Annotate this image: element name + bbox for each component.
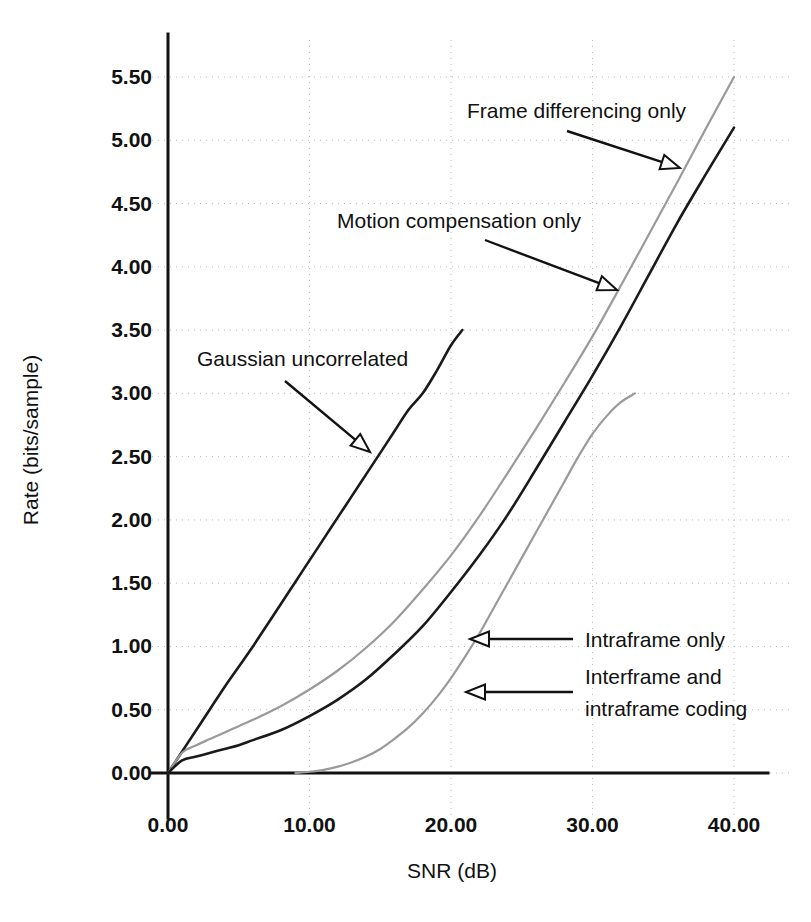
annotation-label-intraframe-only: Intraframe only xyxy=(585,628,726,651)
annotation-arrowhead xyxy=(466,685,485,700)
y-tick-label: 4.00 xyxy=(111,255,152,278)
annotation-label-motion-compensation: Motion compensation only xyxy=(337,209,581,232)
y-axis-tick-labels: 0.000.501.001.502.002.503.003.504.004.50… xyxy=(111,65,152,784)
x-tick-label: 40.00 xyxy=(708,813,761,836)
y-tick-label: 4.50 xyxy=(111,192,152,215)
x-tick-label: 10.00 xyxy=(283,813,336,836)
y-tick-label: 2.00 xyxy=(111,508,152,531)
annotation-arrowhead xyxy=(660,155,680,169)
annotation-label-interframe-intraframe-line2: intraframe coding xyxy=(585,697,747,720)
x-axis-tick-labels: 0.0010.0020.0030.0040.00 xyxy=(148,813,761,836)
annotation-leader-motion-compensation xyxy=(485,240,601,284)
y-tick-label: 3.00 xyxy=(111,381,152,404)
y-axis-title: Rate (bits/sample) xyxy=(19,355,42,525)
x-tick-label: 0.00 xyxy=(148,813,189,836)
y-tick-label: 5.00 xyxy=(111,128,152,151)
annotation-label-frame-differencing: Frame differencing only xyxy=(467,99,687,122)
y-tick-label: 1.00 xyxy=(111,634,152,657)
series-curve-gaussian-uncorrelated xyxy=(168,330,462,773)
chart-figure: 0.0010.0020.0030.0040.00 0.000.501.001.5… xyxy=(0,0,811,922)
x-axis-title: SNR (dB) xyxy=(407,859,497,882)
annotation-leader-frame-differencing xyxy=(567,131,664,163)
y-tick-label: 3.50 xyxy=(111,318,152,341)
y-tick-label: 0.50 xyxy=(111,698,152,721)
annotation-arrowhead xyxy=(597,276,617,290)
x-tick-label: 30.00 xyxy=(566,813,619,836)
y-tick-label: 1.50 xyxy=(111,571,152,594)
rate-vs-snr-chart: 0.0010.0020.0030.0040.00 0.000.501.001.5… xyxy=(0,0,811,922)
annotation-label-interframe-intraframe: Interframe and xyxy=(585,665,722,688)
chart-annotations: Frame differencing onlyMotion compensati… xyxy=(197,99,747,720)
y-tick-label: 2.50 xyxy=(111,445,152,468)
annotation-leader-gaussian-uncorrelated xyxy=(285,381,357,441)
x-tick-label: 20.00 xyxy=(425,813,478,836)
y-tick-label: 5.50 xyxy=(111,65,152,88)
annotation-label-gaussian-uncorrelated: Gaussian uncorrelated xyxy=(197,347,408,370)
y-tick-label: 0.00 xyxy=(111,761,152,784)
